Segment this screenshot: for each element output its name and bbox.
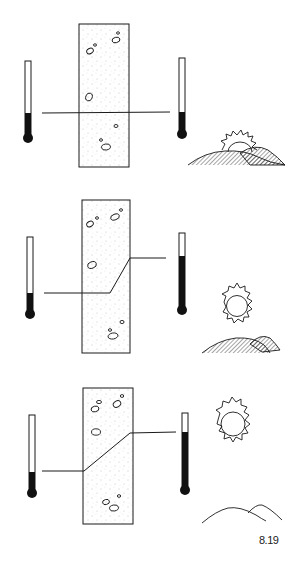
figure-number-label: 8.19 (259, 534, 278, 546)
panel-1 (23, 24, 285, 167)
panel-2 (25, 200, 280, 353)
thermometer-inside-icon (23, 61, 33, 143)
wall-slab (82, 200, 130, 353)
thermometer-outside-icon (177, 58, 187, 139)
midday-sun-icon (202, 397, 282, 523)
temperature-gradient-line (42, 112, 170, 113)
wall-slab (79, 24, 129, 167)
panel-3 (27, 388, 282, 524)
thermometer-outside-icon (177, 233, 187, 315)
wall-slab (83, 388, 133, 524)
heat-flow-diagram (0, 0, 302, 572)
thermometer-inside-icon (25, 237, 35, 319)
thermometer-outside-icon (180, 413, 190, 495)
thermometer-inside-icon (27, 415, 37, 498)
rising-sun-icon (188, 130, 285, 165)
morning-sun-icon (202, 283, 280, 353)
